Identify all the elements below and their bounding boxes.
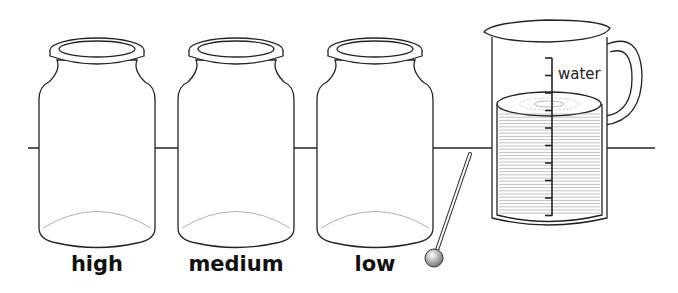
measuring-jug-icon xyxy=(484,20,642,225)
jar-icon xyxy=(39,38,155,248)
jar-label: medium xyxy=(176,252,296,276)
jar-label: high xyxy=(37,252,157,276)
jar-icon xyxy=(317,38,433,248)
diagram-stage: highmediumlow water xyxy=(0,0,678,293)
jar-icon xyxy=(178,38,294,248)
scale-label: water xyxy=(558,65,601,83)
jar-label: low xyxy=(315,252,435,276)
illustration xyxy=(0,0,678,293)
